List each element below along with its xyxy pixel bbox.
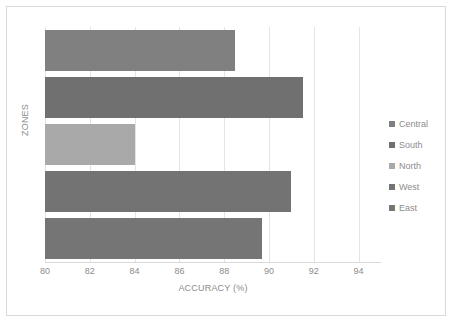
bar-central	[45, 30, 235, 71]
legend-swatch-icon	[389, 184, 395, 190]
gridline-90	[269, 27, 270, 262]
bar-west	[45, 171, 291, 212]
gridline-94	[359, 27, 360, 262]
plot-area	[45, 27, 381, 262]
gridline-92	[314, 27, 315, 262]
x-tick-label-88: 88	[219, 266, 229, 276]
y-axis-title: ZONES	[20, 90, 30, 150]
x-tick-label-82: 82	[85, 266, 95, 276]
legend-swatch-icon	[389, 121, 395, 127]
legend-swatch-icon	[389, 205, 395, 211]
x-axis-title: ACCURACY (%)	[45, 283, 381, 293]
x-tick-label-86: 86	[174, 266, 184, 276]
x-tick-label-84: 84	[130, 266, 140, 276]
x-tick-label-90: 90	[264, 266, 274, 276]
legend-item-label: South	[399, 140, 423, 150]
legend-item-label: West	[399, 182, 419, 192]
legend-item-label: East	[399, 203, 417, 213]
x-axis-line	[45, 262, 381, 263]
legend-item-south[interactable]: South	[389, 134, 445, 155]
legend-item-west[interactable]: West	[389, 176, 445, 197]
bar-east	[45, 218, 262, 259]
chart-frame: 8082848688909294 ACCURACY (%) ZONES Cent…	[6, 6, 446, 316]
legend-item-east[interactable]: East	[389, 197, 445, 218]
legend-item-label: Central	[399, 119, 428, 129]
legend-swatch-icon	[389, 142, 395, 148]
legend: CentralSouthNorthWestEast	[389, 113, 445, 218]
legend-swatch-icon	[389, 163, 395, 169]
legend-item-label: North	[399, 161, 421, 171]
x-tick-label-92: 92	[309, 266, 319, 276]
legend-item-north[interactable]: North	[389, 155, 445, 176]
legend-item-central[interactable]: Central	[389, 113, 445, 134]
bar-north	[45, 124, 135, 165]
x-tick-label-94: 94	[354, 266, 364, 276]
bar-south	[45, 77, 303, 118]
x-tick-label-80: 80	[40, 266, 50, 276]
